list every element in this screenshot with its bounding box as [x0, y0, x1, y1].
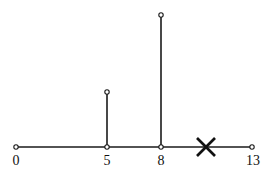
point-8-circle — [159, 145, 163, 149]
tick-label-8: 8 — [158, 153, 165, 168]
tick-label-5: 5 — [104, 153, 111, 168]
tick-label-13: 13 — [246, 153, 260, 168]
point-13-circle — [250, 145, 254, 149]
stem-8-top-circle — [159, 13, 163, 17]
stem-5-top-circle — [105, 90, 109, 94]
point-5-circle — [105, 145, 109, 149]
tick-label-0: 0 — [13, 153, 20, 168]
point-0-circle — [14, 145, 18, 149]
number-line-diagram: 0 5 8 13 — [0, 0, 270, 177]
